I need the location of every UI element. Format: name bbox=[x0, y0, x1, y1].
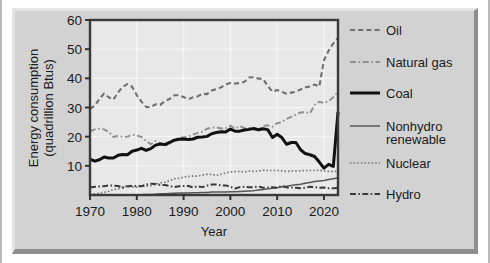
legend-label-hydro[interactable]: Hydro bbox=[386, 187, 421, 202]
legend-label-nonhydro-renewable-line2[interactable]: renewable bbox=[386, 132, 446, 147]
y-tick-label: 20 bbox=[67, 130, 82, 145]
x-axis-title: Year bbox=[201, 224, 228, 239]
y-tick-label: 60 bbox=[67, 13, 82, 28]
y-tick-label: 30 bbox=[67, 101, 82, 116]
y-tick-label: 40 bbox=[67, 71, 82, 86]
energy-consumption-line-chart: 102030405060 197019801990200020102020 En… bbox=[12, 8, 478, 254]
chart-canvas: 102030405060 197019801990200020102020 En… bbox=[12, 8, 478, 254]
legend-label-nuclear[interactable]: Nuclear bbox=[386, 156, 431, 171]
legend-label-natural-gas[interactable]: Natural gas bbox=[386, 55, 453, 70]
legend-label-coal[interactable]: Coal bbox=[386, 86, 413, 101]
y-axis-title-line1: Energy consumption bbox=[26, 49, 41, 168]
x-tick-label: 1970 bbox=[75, 204, 105, 219]
y-axis-ticks: 102030405060 bbox=[67, 13, 90, 174]
x-tick-label: 2020 bbox=[309, 204, 339, 219]
y-tick-label: 10 bbox=[67, 159, 82, 174]
x-tick-label: 1980 bbox=[122, 204, 152, 219]
figure-root: 102030405060 197019801990200020102020 En… bbox=[0, 0, 490, 263]
legend: OilNatural gasCoalNonhydrorenewableNucle… bbox=[350, 23, 453, 202]
x-tick-label: 2010 bbox=[262, 204, 292, 219]
y-axis-title-line2: (quadrillion Btus) bbox=[41, 59, 56, 157]
x-tick-label: 2000 bbox=[215, 204, 245, 219]
x-tick-label: 1990 bbox=[169, 204, 199, 219]
x-axis-ticks: 197019801990200020102020 bbox=[75, 195, 339, 219]
legend-label-oil[interactable]: Oil bbox=[386, 23, 402, 38]
y-tick-label: 50 bbox=[67, 42, 82, 57]
